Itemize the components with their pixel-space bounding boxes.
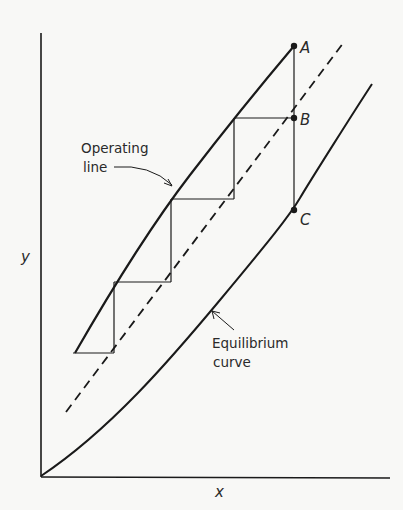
operating-line-arrow [114, 167, 172, 185]
stage-steps [73, 46, 294, 353]
point-a-marker [291, 43, 297, 49]
point-a-label: A [299, 39, 310, 57]
point-b-marker [291, 115, 297, 121]
arrowhead-icon [164, 179, 172, 186]
equilibrium-label-2: curve [213, 354, 251, 370]
equilibrium-arrow [212, 311, 234, 330]
x-axis-label: x [214, 483, 224, 501]
diagram-svg: A B C Operating line Equilibrium curve y… [0, 0, 403, 510]
axes [41, 33, 390, 478]
point-c-label: C [300, 211, 311, 229]
point-c-marker [291, 207, 297, 213]
y-axis-label: y [20, 248, 31, 266]
equilibrium-label-1: Equilibrium [212, 335, 289, 351]
operating-line-label-1: Operating [81, 140, 149, 156]
operating-line-label-2: line [83, 159, 107, 175]
point-b-label: B [300, 111, 310, 129]
diagram-canvas: A B C Operating line Equilibrium curve y… [0, 0, 403, 510]
x-axis [41, 477, 390, 478]
